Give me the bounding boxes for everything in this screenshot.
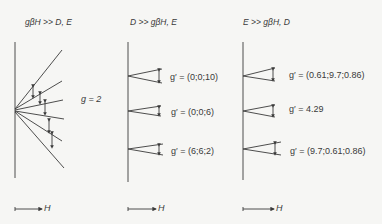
panel-1-title: gβH >> D, E [25, 17, 72, 27]
panel-3-value-2: g′ = 4.29 [289, 104, 323, 114]
field-axes [15, 207, 274, 211]
panel-2-levels [128, 42, 163, 182]
panel-2-axis-label: H [158, 203, 165, 213]
panel-3-value-1: g′ = (0.61;9.7;0.86) [289, 70, 365, 80]
panel-3-levels [243, 42, 281, 180]
panel-1-g-label: g = 2 [81, 94, 101, 104]
panel-2-value-2: g′ = (0;0;6) [171, 107, 214, 117]
panel-2-value-3: g′ = (6;6;2) [171, 146, 214, 156]
epr-energy-level-diagram: gβH >> D, E g = 2 H D >> gβH, E g′ = (0;… [0, 0, 382, 224]
panel-3-value-3: g′ = (9.7;0.61;0.86) [290, 146, 366, 156]
panel-1-axis-label: H [44, 203, 51, 213]
panel-1-fan [15, 42, 64, 178]
panel-3-axis-label: H [276, 203, 283, 213]
panel-2-title: D >> gβH, E [130, 17, 177, 27]
panel-2-value-1: g′ = (0;0;10) [170, 72, 218, 82]
panel-3-title: E >> gβH, D [243, 17, 290, 27]
